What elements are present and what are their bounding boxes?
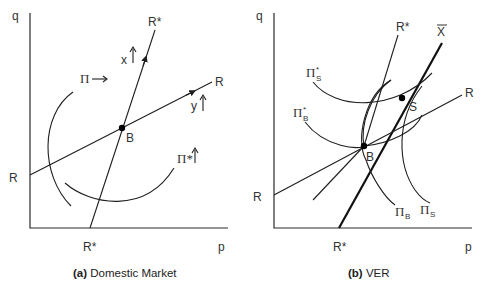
arrow-on-rstar-a: [143, 59, 146, 67]
panel-ver: q p R* X R* R R S B Π S *: [253, 9, 474, 279]
pistar-b-star: *: [303, 105, 306, 114]
point-s-label: S: [409, 100, 417, 114]
point-b-label-b: B: [366, 150, 374, 164]
pistar-s-star: *: [316, 65, 319, 74]
y-label-a: y: [191, 99, 197, 113]
caption-a-prefix: (a): [73, 267, 87, 279]
r-left-label-a: R: [9, 171, 18, 185]
isoprofit-pi-a: [48, 92, 73, 206]
r-right-label-b: R: [465, 86, 474, 100]
pistar-s-label: Π: [306, 65, 315, 80]
r-right-label-a: R: [215, 75, 224, 89]
rstar-top-label-a: R*: [148, 15, 162, 29]
axes-a: [30, 13, 228, 228]
caption-a: (a) Domestic Market: [73, 267, 177, 279]
pi-b-sub: B: [405, 212, 410, 221]
pistar-s-sub: S: [316, 74, 321, 83]
axis-p-label-b: p: [465, 240, 472, 254]
panel-domestic-market: q p R* R* R R x y Π Π* B: [9, 9, 228, 279]
diagram-canvas: q p R* R* R R x y Π Π* B: [0, 0, 485, 287]
axis-q-label-a: q: [12, 9, 19, 23]
isoprofit-pistar-a: [65, 168, 174, 201]
pistar-label-a: Π*: [177, 151, 193, 166]
caption-b-text: VER: [363, 267, 390, 279]
caption-b: (b) VER: [348, 267, 390, 279]
ray-through-b: [313, 146, 364, 200]
arrow-on-r-a: [186, 92, 193, 96]
xbar-label: X: [437, 25, 445, 39]
pi-b-label: Π: [395, 204, 404, 219]
point-s: [399, 95, 405, 101]
pistar-b-sub: B: [303, 114, 308, 123]
caption-a-text: Domestic Market: [87, 267, 177, 279]
pi-label-a: Π: [80, 71, 89, 86]
caption-b-prefix: (b): [348, 267, 363, 279]
point-b-b: [361, 143, 367, 149]
pi-s-sub: S: [430, 210, 435, 219]
rstar-bottom-label-a: R*: [83, 240, 97, 254]
rstar-bottom-label-b: R*: [333, 240, 347, 254]
rstar-top-label-b: R*: [396, 20, 410, 34]
axis-q-label-b: q: [256, 9, 263, 23]
pi-s-label: Π: [420, 202, 429, 217]
point-b-label-a: B: [126, 131, 134, 145]
r-left-label-b: R: [253, 190, 262, 204]
pistar-b-label: Π: [293, 105, 302, 120]
ver-line-xbar: [339, 43, 442, 228]
axis-p-label-a: p: [218, 240, 225, 254]
x-label-a: x: [121, 53, 127, 67]
point-b-a: [119, 125, 125, 131]
